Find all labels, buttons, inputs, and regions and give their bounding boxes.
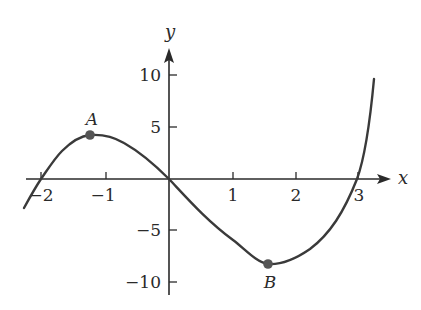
x-axis: −2 −1 1 2 3 x bbox=[26, 167, 408, 205]
y-axis: 10 5 −5 −10 y bbox=[125, 21, 177, 295]
y-tick-label-m10: −10 bbox=[125, 272, 161, 292]
function-curve bbox=[24, 79, 374, 264]
y-tick-label-5: 5 bbox=[150, 117, 161, 137]
cubic-graph: −2 −1 1 2 3 x 10 5 −5 −10 y A B bbox=[0, 0, 421, 310]
x-tick-label-3: 3 bbox=[354, 185, 365, 205]
point-a-label: A bbox=[84, 109, 98, 129]
point-a-marker bbox=[85, 130, 95, 140]
point-b-label: B bbox=[263, 272, 277, 292]
y-tick-label-m5: −5 bbox=[136, 220, 161, 240]
x-tick-label-1: 1 bbox=[228, 185, 239, 205]
x-tick-label-m1: −1 bbox=[90, 185, 115, 205]
x-axis-label: x bbox=[398, 167, 408, 188]
point-b-marker bbox=[263, 259, 273, 269]
x-tick-label-2: 2 bbox=[291, 185, 302, 205]
y-axis-label: y bbox=[164, 21, 176, 42]
y-tick-label-10: 10 bbox=[139, 65, 161, 85]
